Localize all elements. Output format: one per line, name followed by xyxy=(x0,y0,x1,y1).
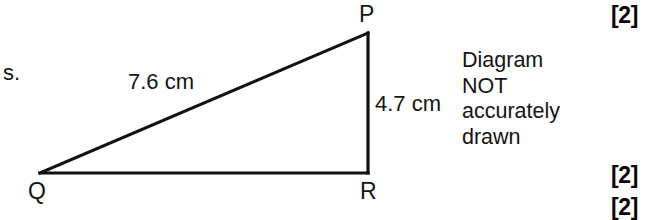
marks-allocation-1: [2] xyxy=(611,2,638,29)
side-length-label-pr: 4.7 cm xyxy=(375,93,441,115)
marks-allocation-3: [2] xyxy=(611,194,638,220)
note-line-1: Diagram xyxy=(462,48,594,74)
note-line-2: NOT xyxy=(462,74,594,100)
vertex-label-r: R xyxy=(360,180,377,203)
vertex-label-p: P xyxy=(359,3,374,26)
marks-allocation-2: [2] xyxy=(611,162,638,189)
note-line-4: drawn xyxy=(462,125,594,151)
note-line-3: accurately xyxy=(462,99,594,125)
vertex-label-q: Q xyxy=(28,180,46,203)
side-length-label-qp: 7.6 cm xyxy=(128,71,194,93)
triangle-side-qp xyxy=(40,33,368,173)
geometry-figure: s. P Q R 7.6 cm 4.7 cm Diagram NOT accur… xyxy=(0,0,648,220)
diagram-not-accurate-note: Diagram NOT accurately drawn xyxy=(462,48,594,150)
